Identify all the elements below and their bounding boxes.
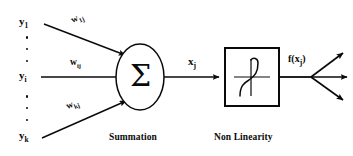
nonlinearity-caption: Non Linearity xyxy=(214,133,273,143)
ellipsis-dot xyxy=(26,36,29,39)
input-label-y1: y1 xyxy=(19,16,28,30)
ellipsis-dot xyxy=(26,119,29,122)
ellipsis-dot xyxy=(26,95,29,98)
summation-caption: Summation xyxy=(109,133,157,143)
input-label-yi: yi xyxy=(19,70,27,84)
input-yk-subscript: k xyxy=(25,135,29,144)
ellipsis-dot xyxy=(26,60,29,63)
net-input-label-xj: xj xyxy=(188,56,196,70)
input-yi-subscript: i xyxy=(25,75,27,84)
sigma-icon: Σ xyxy=(130,61,151,91)
input-label-yk: yk xyxy=(19,130,29,144)
weight-wij-subscript: ij xyxy=(77,62,81,69)
output-label-fxj: f(xj) xyxy=(288,54,306,67)
output-arrow-up xyxy=(311,53,343,77)
edge-y1-to-sum xyxy=(44,24,125,55)
neuron-diagram: y1 yi yk w1j wij wkj Σ xj f(xj) Summatio… xyxy=(0,0,353,156)
ellipsis-dot xyxy=(26,48,29,51)
input-y1-subscript: 1 xyxy=(25,21,29,30)
weight-label-wij: wij xyxy=(70,58,81,69)
diagram-canvas xyxy=(0,0,353,156)
ellipsis-upper xyxy=(24,36,30,62)
output-prefix: f(x xyxy=(288,53,300,64)
output-arrow-down xyxy=(311,77,343,100)
net-input-subscript: j xyxy=(194,61,197,70)
ellipsis-lower xyxy=(24,95,30,121)
output-suffix: ) xyxy=(302,53,305,64)
weight-wij-base: w xyxy=(70,57,77,67)
ellipsis-dot xyxy=(26,107,29,110)
